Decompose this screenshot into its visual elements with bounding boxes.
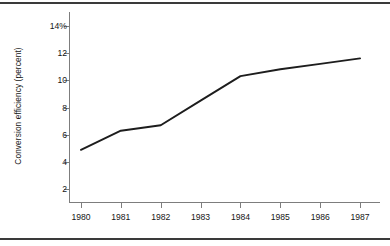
x-tick-1982 xyxy=(161,203,162,208)
y-tick-label-10: 10 xyxy=(57,75,67,85)
x-tick-label-1984: 1984 xyxy=(231,212,250,222)
y-tick-label-8: 8 xyxy=(62,103,67,113)
page-rule-bottom xyxy=(0,238,390,240)
y-tick-label-12: 12 xyxy=(57,48,67,58)
x-tick-label-1987: 1987 xyxy=(351,212,370,222)
x-tick-label-1982: 1982 xyxy=(151,212,170,222)
x-tick-1984 xyxy=(240,203,241,208)
plot-area: 2468101214% 1980198119821983198419851986… xyxy=(69,12,380,203)
page-rule-top xyxy=(0,2,390,4)
y-tick-label-14: 14% xyxy=(50,21,67,31)
x-tick-label-1986: 1986 xyxy=(311,212,330,222)
y-tick-label-6: 6 xyxy=(62,130,67,140)
y-tick-label-4: 4 xyxy=(62,157,67,167)
x-tick-label-1983: 1983 xyxy=(191,212,210,222)
line-chart-figure: Conversion efficiency (percent) 24681012… xyxy=(0,5,390,237)
y-tick-label-2: 2 xyxy=(62,184,67,194)
x-tick-1980 xyxy=(81,203,82,208)
x-tick-label-1985: 1985 xyxy=(271,212,290,222)
y-axis-title: Conversion efficiency (percent) xyxy=(13,26,23,186)
x-tick-1987 xyxy=(360,203,361,208)
x-tick-label-1981: 1981 xyxy=(111,212,130,222)
x-tick-1983 xyxy=(201,203,202,208)
x-tick-1981 xyxy=(121,203,122,208)
x-tick-1985 xyxy=(280,203,281,208)
series-line-conversion-efficiency xyxy=(69,12,380,203)
x-tick-1986 xyxy=(320,203,321,208)
x-tick-label-1980: 1980 xyxy=(71,212,90,222)
